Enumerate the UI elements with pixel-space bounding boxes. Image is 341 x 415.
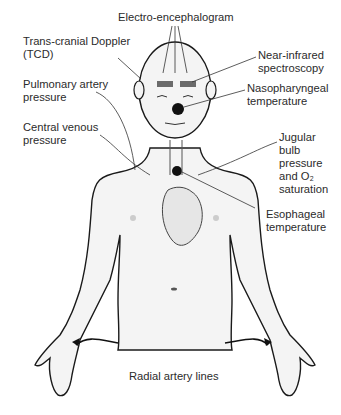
- label-esophageal: Esophageal temperature: [266, 208, 326, 234]
- label-eeg: Electro-encephalogram: [118, 11, 234, 24]
- radial-arrow-left: [76, 339, 118, 345]
- label-cvp: Central venous pressure: [23, 121, 98, 147]
- eeg-sensor-right: [180, 81, 196, 87]
- label-nirs: Near-infrared spectroscopy: [258, 49, 324, 75]
- nasal-probe: [172, 103, 184, 115]
- label-jugular: Jugular bulb pressure and O₂ saturation: [279, 131, 328, 196]
- esophageal-probe: [172, 166, 182, 176]
- label-naso: Nasopharyngeal temperature: [247, 82, 328, 108]
- label-tcd: Trans-cranial Doppler (TCD): [23, 35, 130, 61]
- body-outline: [35, 148, 315, 396]
- label-pap: Pulmonary artery pressure: [23, 78, 108, 104]
- eeg-sensor-left: [157, 81, 173, 87]
- label-radial: Radial artery lines: [129, 370, 219, 383]
